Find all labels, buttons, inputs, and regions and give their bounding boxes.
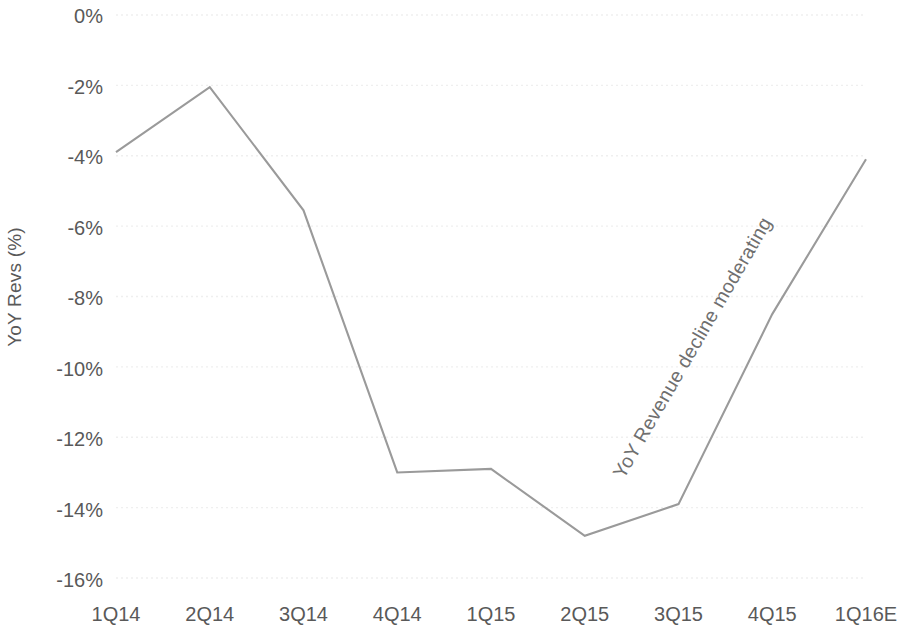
x-tick-label: 2Q15 <box>560 604 609 624</box>
x-tick-label: 4Q14 <box>373 604 422 624</box>
x-tick-label: 4Q15 <box>748 604 797 624</box>
x-tick-label: 1Q16E <box>835 604 897 624</box>
x-tick-label: 1Q15 <box>467 604 516 624</box>
x-axis-tick-labels: 1Q142Q143Q144Q141Q152Q153Q154Q151Q16E <box>0 600 881 625</box>
x-tick-label: 3Q15 <box>654 604 703 624</box>
x-tick-label: 1Q14 <box>92 604 141 624</box>
x-tick-label: 3Q14 <box>279 604 328 624</box>
x-tick-label: 2Q14 <box>185 604 234 624</box>
gridlines <box>116 15 866 578</box>
data-series-line <box>116 87 866 536</box>
